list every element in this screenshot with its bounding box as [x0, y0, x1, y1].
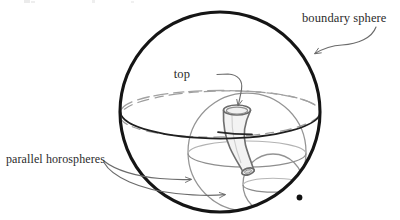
main-horosphere-front-arc — [121, 112, 321, 139]
horospheres-diagram-canvas: boundary sphere top parallel horospheres — [0, 0, 400, 220]
funnel-top-inner-rim — [226, 107, 247, 114]
label-parallel-horospheres: parallel horospheres — [6, 152, 105, 166]
top-leader — [217, 74, 242, 106]
cropped-text-artifacts — [24, 0, 134, 3]
label-top: top — [174, 67, 190, 81]
small-horosphere-equator-front — [243, 185, 303, 192]
label-boundary-sphere: boundary sphere — [302, 11, 387, 25]
horospheres-figure: boundary sphere top parallel horospheres — [0, 0, 400, 220]
main-horosphere-back-arc-visible — [121, 91, 321, 113]
boundary-sphere-leader — [315, 27, 376, 54]
tangency-dot — [297, 195, 303, 201]
parallel-horospheres-leader-1 — [104, 161, 191, 180]
